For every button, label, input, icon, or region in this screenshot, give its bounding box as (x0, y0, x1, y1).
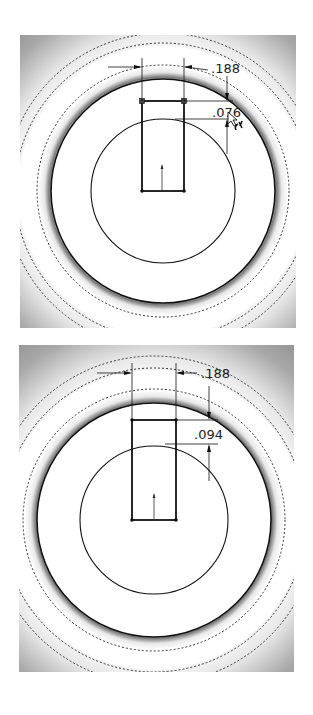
sketch-canvas-top[interactable]: .188 .076 (0, 0, 313, 340)
width-dimension-label[interactable]: .188 (211, 61, 240, 76)
width-dimension-label[interactable]: .188 (201, 366, 230, 381)
sketch-view-bottom: .188 .094 (0, 340, 313, 715)
vertex-point[interactable] (182, 189, 186, 193)
vertex-point[interactable] (140, 189, 144, 193)
depth-dimension-label[interactable]: .076 (212, 105, 241, 120)
depth-dimension-label[interactable]: .094 (194, 427, 223, 442)
sketch-canvas-bottom[interactable]: .188 .094 (0, 340, 313, 715)
vertex-point[interactable] (174, 518, 178, 522)
sketch-view-top: .188 .076 (0, 0, 313, 340)
vertex-point[interactable] (130, 518, 134, 522)
